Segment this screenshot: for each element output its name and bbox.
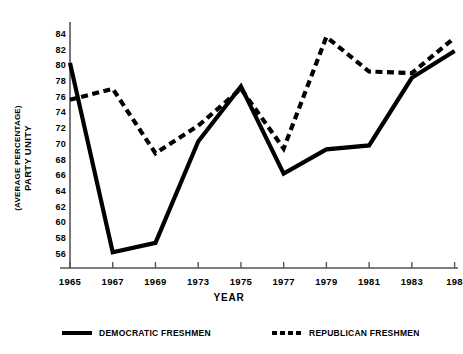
- legend-label-democratic: DEMOCRATIC FRESHMEN: [99, 328, 211, 338]
- x-axis-tick-label: 1977: [272, 276, 294, 287]
- x-axis-tick-label: 1981: [358, 276, 380, 287]
- chart-legend: DEMOCRATIC FRESHMEN REPUBLICAN FRESHMEN: [0, 328, 458, 350]
- x-axis-tick-label: 1969: [144, 276, 166, 287]
- solid-line-swatch-icon: [62, 331, 92, 335]
- x-axis-tick-label: 1973: [187, 276, 209, 287]
- legend-item-republican: REPUBLICAN FRESHMEN: [272, 328, 420, 338]
- x-axis-title: YEAR: [0, 292, 458, 303]
- x-axis-tick-label: 1967: [102, 276, 124, 287]
- legend-item-democratic: DEMOCRATIC FRESHMEN: [62, 328, 211, 338]
- x-axis-tick-label: 1965: [59, 276, 81, 287]
- legend-label-republican: REPUBLICAN FRESHMEN: [309, 328, 420, 338]
- x-axis-tick-label: 1979: [315, 276, 337, 287]
- x-axis-tick-label: 1983: [401, 276, 423, 287]
- x-axis-tick-label: 198: [446, 276, 463, 287]
- dashed-line-swatch-icon: [272, 331, 302, 335]
- x-axis-tick-label: 1975: [230, 276, 252, 287]
